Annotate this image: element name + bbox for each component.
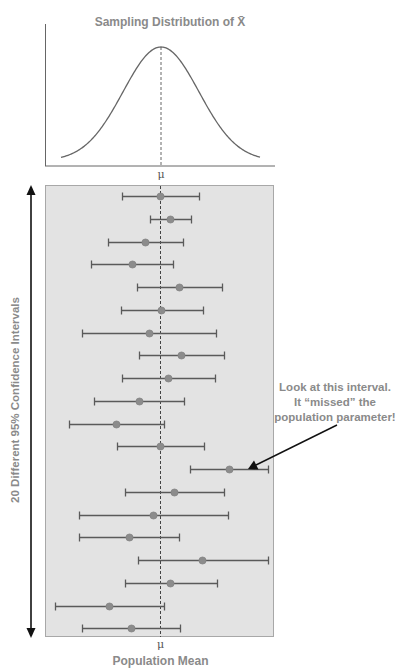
top-mu-label: μ xyxy=(157,168,164,181)
point-estimate-dot xyxy=(157,193,164,200)
top-chart-title: Sampling Distribution of X̄ xyxy=(95,15,246,29)
point-estimate-dot xyxy=(226,466,233,473)
point-estimate-dot xyxy=(146,330,153,337)
point-estimate-dot xyxy=(150,512,157,519)
point-estimate-dot xyxy=(167,580,174,587)
sampling-distribution-chart: Sampling Distribution of X̄ μ xyxy=(45,15,275,181)
point-estimate-dot xyxy=(157,443,164,450)
annotation-line-3: population parameter! xyxy=(274,411,395,423)
arrow-down-icon xyxy=(27,628,36,638)
arrow-up-icon xyxy=(27,185,36,195)
point-estimate-dot xyxy=(113,421,120,428)
point-estimate-dot xyxy=(165,375,172,382)
bottom-mu-label: μ xyxy=(157,638,164,651)
annotation-line-2: It “missed” the xyxy=(294,396,376,408)
confidence-interval-diagram: Sampling Distribution of X̄ μ 20 Differe… xyxy=(0,0,413,669)
point-estimate-dot xyxy=(126,534,133,541)
x-axis-label: Population Mean xyxy=(113,654,209,668)
point-estimate-dot xyxy=(167,216,174,223)
annotation-line-1: Look at this interval. xyxy=(279,381,391,393)
point-estimate-dot xyxy=(178,352,185,359)
point-estimate-dot xyxy=(176,284,183,291)
point-estimate-dot xyxy=(199,557,206,564)
y-axis-label: 20 Different 95% Confidence Intervals xyxy=(9,297,21,503)
point-estimate-dot xyxy=(136,398,143,405)
point-estimate-dot xyxy=(129,261,136,268)
point-estimate-dot xyxy=(128,625,135,632)
intervals-panel xyxy=(46,186,274,637)
point-estimate-dot xyxy=(158,307,165,314)
point-estimate-dot xyxy=(106,603,113,610)
point-estimate-dot xyxy=(142,239,149,246)
vertical-axis-arrow xyxy=(27,185,36,638)
point-estimate-dot xyxy=(171,489,178,496)
